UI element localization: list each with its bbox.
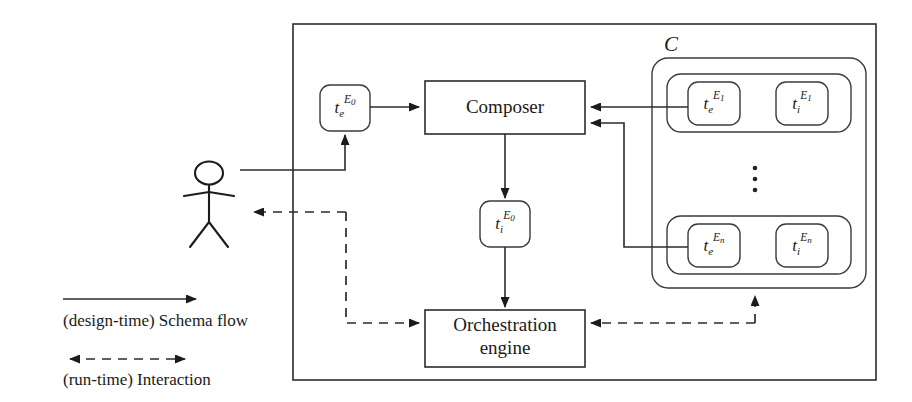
actor-head-icon: [195, 162, 223, 185]
node-ti-e1: tiE1: [776, 82, 828, 125]
actor-legs-icon: [190, 222, 228, 247]
element-row-n: teEn tiEn: [667, 216, 851, 274]
node-te-en: teEn: [688, 224, 740, 267]
legend: (design-time) Schema flow (run-time) Int…: [63, 299, 249, 389]
composer-label: Composer: [466, 96, 545, 117]
node-te-e1: teE1: [688, 82, 740, 125]
diagram-root: teE0 Composer tiE0 Orchestration engine …: [0, 0, 912, 402]
legend-label-run-time: (run-time) Interaction: [63, 370, 211, 389]
legend-label-design-time: (design-time) Schema flow: [63, 311, 249, 330]
orchestration-engine-label-line1: Orchestration: [453, 314, 557, 335]
node-ti-e0: tiE0: [480, 201, 530, 247]
orchestration-engine-box: Orchestration engine: [425, 310, 585, 367]
architecture-diagram: teE0 Composer tiE0 Orchestration engine …: [0, 0, 912, 402]
user-actor: [184, 162, 234, 248]
orchestration-engine-label-line2: engine: [480, 337, 531, 358]
collection-group: C teE1 tiE1: [652, 32, 866, 288]
node-ti-en: tiEn: [776, 224, 828, 267]
node-te-e0: teE0: [320, 85, 370, 131]
element-row-1: teE1 tiE1: [667, 74, 851, 132]
collection-group-label: C: [664, 32, 679, 56]
composer-box: Composer: [425, 81, 585, 134]
